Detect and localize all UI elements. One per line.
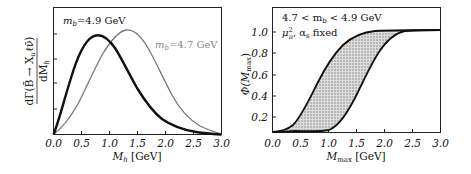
right-ytick-0.4: 0.4: [251, 90, 268, 102]
left-xtick-1: 0.5: [73, 137, 90, 149]
annotation-params-fixed: μ2π, αs fixed: [282, 26, 338, 41]
right-y-tick-labels: 0.2 0.4 0.6 0.8 1.0: [251, 26, 268, 123]
left-y-ticks: [54, 34, 58, 109]
right-xtick-1: 0.5: [292, 137, 309, 149]
right-x-axis-title: Mmax [GeV]: [325, 150, 385, 164]
left-y-axis-title: dΓ(B̄ → Xuℓν̄) dMh: [23, 37, 51, 106]
left-xtick-5: 2.5: [184, 137, 202, 149]
svg-text:dMh: dMh: [37, 60, 51, 82]
annotation-mb-4.7: mb=4.7 GeV: [155, 39, 218, 52]
left-plot-frame: [54, 8, 222, 135]
curve-mb-4.9: [54, 35, 222, 134]
left-xtick-2: 1.0: [101, 137, 118, 149]
right-xtick-5: 2.5: [403, 137, 421, 149]
svg-text:dΓ(B̄ → Xuℓν̄): dΓ(B̄ → Xuℓν̄): [23, 37, 37, 106]
right-ytick-0.8: 0.8: [251, 47, 268, 59]
right-x-tick-labels: 0.0 0.5 1.0 1.5 2.0 2.5 3.0: [264, 137, 449, 149]
annotation-mb-4.9: mb=4.9 GeV: [63, 15, 126, 28]
left-chart: 0.0 0.5 1.0 1.5 2.0 2.5 3.0 Mh [GeV] dΓ(…: [0, 0, 235, 174]
right-y-ticks: [273, 32, 277, 117]
left-x-tick-labels: 0.0 0.5 1.0 1.5 2.0 2.5 3.0: [45, 137, 230, 149]
right-xtick-4: 2.0: [375, 137, 393, 149]
right-xtick-3: 1.5: [348, 137, 365, 149]
right-chart: 0.2 0.4 0.6 0.8 1.0 0.0 0.5 1.0 1.5 2.0 …: [235, 0, 471, 174]
right-xtick-0: 0.0: [264, 137, 281, 149]
right-xtick-6: 3.0: [432, 137, 449, 149]
right-ytick-0.2: 0.2: [251, 111, 268, 123]
left-x-ticks: [82, 131, 194, 135]
left-xtick-0: 0.0: [45, 137, 62, 149]
uncertainty-band: [273, 30, 441, 132]
annotation-mb-range: 4.7 < mb < 4.9 GeV: [282, 12, 382, 25]
left-xtick-4: 2.0: [156, 137, 174, 149]
right-ytick-1.0: 1.0: [251, 26, 268, 38]
right-xtick-2: 1.0: [320, 137, 337, 149]
right-ytick-0.6: 0.6: [251, 69, 268, 81]
left-xtick-3: 1.5: [129, 137, 146, 149]
left-xtick-6: 3.0: [213, 137, 230, 149]
right-y-axis-title: Φ(Mmax): [239, 53, 253, 95]
left-x-axis-title: Mh [GeV]: [112, 150, 162, 164]
